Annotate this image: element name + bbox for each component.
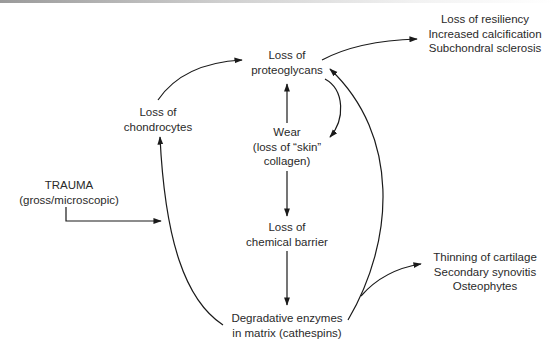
node-line: collagen) <box>242 154 332 169</box>
node-line: Wear <box>242 125 332 140</box>
node-line: (gross/microscopic) <box>10 193 128 208</box>
node-trauma: TRAUMA (gross/microscopic) <box>10 178 128 207</box>
node-line: Secondary synovitis <box>422 265 548 280</box>
edge-enzymes-to-chondrocytes <box>160 137 223 325</box>
node-outcome-bottom: Thinning of cartilage Secondary synoviti… <box>422 250 548 294</box>
node-line: Loss of <box>237 220 337 235</box>
node-degradative-enzymes: Degradative enzymes in matrix (cathespin… <box>222 311 352 340</box>
node-loss-of-chemical-barrier: Loss of chemical barrier <box>237 220 337 249</box>
node-line: proteoglycans <box>245 63 329 78</box>
node-line: (loss of “skin” <box>242 140 332 155</box>
node-line: Thinning of cartilage <box>422 250 548 265</box>
node-line: TRAUMA <box>10 178 128 193</box>
edge-enzymes-to-outcome-bottom <box>361 264 421 296</box>
node-line: Loss of <box>245 48 329 63</box>
node-line: Increased calcification <box>420 27 550 42</box>
node-outcome-top: Loss of resiliency Increased calcificati… <box>420 12 550 56</box>
node-line: chemical barrier <box>237 235 337 250</box>
edge-trauma-to-path <box>66 207 161 221</box>
node-line: Subchondral sclerosis <box>420 41 550 56</box>
node-line: Loss of resiliency <box>420 12 550 27</box>
node-line: in matrix (cathespins) <box>222 326 352 341</box>
node-loss-of-chondrocytes: Loss of chondrocytes <box>113 105 203 134</box>
node-loss-of-proteoglycans: Loss of proteoglycans <box>245 48 329 77</box>
node-line: Degradative enzymes <box>222 311 352 326</box>
node-line: Osteophytes <box>422 279 548 294</box>
edge-proteoglycans-to-outcome-top <box>322 39 417 60</box>
node-line: chondrocytes <box>113 120 203 135</box>
edge-chondrocytes-to-proteoglycans <box>158 60 242 100</box>
node-line: Loss of <box>113 105 203 120</box>
node-wear: Wear (loss of “skin” collagen) <box>242 125 332 169</box>
